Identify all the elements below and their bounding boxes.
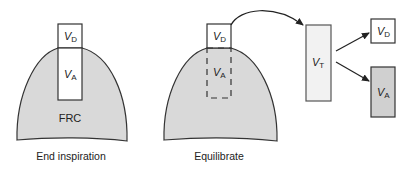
panel-equilibrate: VD VA Equilibrate [164, 24, 277, 162]
lung-equilibrated-shape [164, 48, 277, 141]
caption-equilibrate: Equilibrate [194, 150, 244, 162]
panel-end-inspiration: VD VA FRC End inspiration [17, 24, 127, 162]
panel-tidal-volume: VT VD VA [306, 19, 395, 117]
caption-end-inspiration: End inspiration [36, 150, 106, 162]
dead-space-diagram: VD VA FRC End inspiration VD VA Equilibr… [0, 0, 407, 169]
arrow-to-vd-icon [336, 33, 369, 51]
frc-label: FRC [59, 112, 82, 124]
curved-arrow-icon [231, 11, 303, 25]
arrow-to-va-icon [336, 62, 369, 81]
